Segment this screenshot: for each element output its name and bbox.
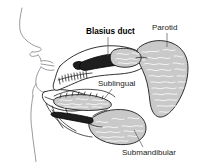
sublingual-gland: [54, 89, 115, 110]
parotid-gland: [137, 41, 188, 118]
label-sublingual: Sublingual: [98, 79, 136, 88]
label-parotid: Parotid: [152, 23, 177, 32]
label-submandibular: Submandibular: [122, 148, 176, 157]
label-blasius-duct: Blasius duct: [86, 27, 135, 36]
salivary-gland-illustration: Blasius duct Parotid Sublingual Submandi…: [0, 0, 201, 162]
anatomy-diagram: Blasius duct Parotid Sublingual Submandi…: [0, 0, 201, 162]
